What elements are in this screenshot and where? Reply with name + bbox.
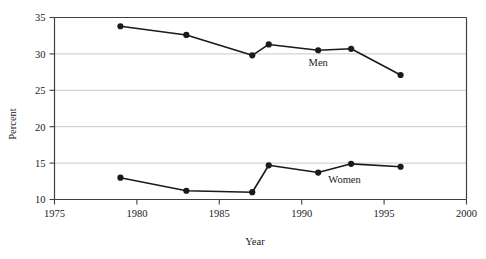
line-chart: 197519801985199019952000 101520253035 Me… <box>0 0 486 259</box>
data-point-men-1991 <box>315 47 321 53</box>
x-axis-ticks <box>55 200 467 205</box>
y-tick-label-35: 35 <box>35 12 46 23</box>
x-tick-label-1990: 1990 <box>291 208 312 219</box>
plot-area-border <box>55 18 467 200</box>
y-tick-label-30: 30 <box>35 49 46 60</box>
data-point-men-1983 <box>183 32 189 38</box>
x-tick-label-1985: 1985 <box>209 208 230 219</box>
y-axis-tick-labels: 101520253035 <box>35 12 46 205</box>
y-axis-title: Percent <box>7 108 18 140</box>
data-point-women-1996 <box>397 164 403 170</box>
series-line-men <box>120 26 400 75</box>
data-point-women-1988 <box>266 162 272 168</box>
data-series-lines <box>120 26 400 192</box>
x-axis-title: Year <box>245 236 265 247</box>
y-tick-label-20: 20 <box>35 122 46 133</box>
y-tick-label-10: 10 <box>35 194 46 205</box>
x-tick-label-1980: 1980 <box>126 208 147 219</box>
gridlines <box>55 18 467 164</box>
y-axis-ticks <box>50 18 55 200</box>
data-point-women-1991 <box>315 169 321 175</box>
x-tick-label-2000: 2000 <box>456 208 477 219</box>
series-label-women: Women <box>328 174 361 185</box>
chart-canvas: 197519801985199019952000 101520253035 Me… <box>0 0 486 259</box>
data-point-men-1993 <box>348 46 354 52</box>
data-point-men-1988 <box>266 41 272 47</box>
series-label-men: Men <box>309 57 329 68</box>
y-tick-label-25: 25 <box>35 85 46 96</box>
data-point-men-1987 <box>249 52 255 58</box>
x-tick-label-1995: 1995 <box>374 208 395 219</box>
series-annotations: MenWomen <box>309 57 362 185</box>
data-point-men-1979 <box>117 23 123 29</box>
data-point-women-1979 <box>117 175 123 181</box>
data-point-women-1993 <box>348 161 354 167</box>
x-axis-tick-labels: 197519801985199019952000 <box>44 208 477 219</box>
data-point-men-1996 <box>397 72 403 78</box>
y-tick-label-15: 15 <box>35 158 46 169</box>
x-tick-label-1975: 1975 <box>44 208 65 219</box>
data-point-women-1983 <box>183 188 189 194</box>
data-point-women-1987 <box>249 189 255 195</box>
